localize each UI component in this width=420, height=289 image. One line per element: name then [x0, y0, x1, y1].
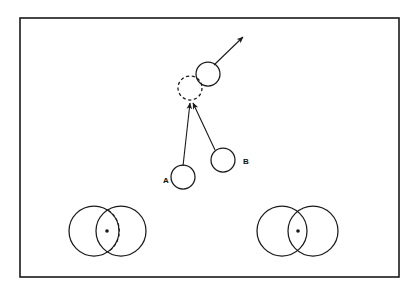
moving-disk-solid [196, 62, 220, 86]
incoming-vectors-group: A B [163, 103, 249, 189]
disk-b [211, 148, 235, 172]
pair-right-circle-2 [288, 206, 338, 256]
label-a: A [163, 176, 169, 185]
pair-left-center-dot [105, 229, 109, 233]
collision-diagram: A B [0, 0, 420, 289]
velocity-arrow-from-b [193, 103, 215, 150]
velocity-arrow-from-a [183, 103, 190, 166]
outer-frame [20, 18, 399, 277]
ghost-disk-dashed [178, 76, 202, 100]
collision-group [178, 37, 243, 100]
overlapping-disk-pair-right [257, 206, 338, 256]
disk-a [171, 165, 195, 189]
outgoing-velocity-arrow [214, 37, 243, 65]
pair-right-center-dot [296, 229, 300, 233]
label-b: B [243, 157, 249, 166]
figure-root: A B [0, 0, 420, 289]
overlapping-disk-pair-left [69, 206, 146, 256]
pair-left-circle-2 [96, 206, 146, 256]
